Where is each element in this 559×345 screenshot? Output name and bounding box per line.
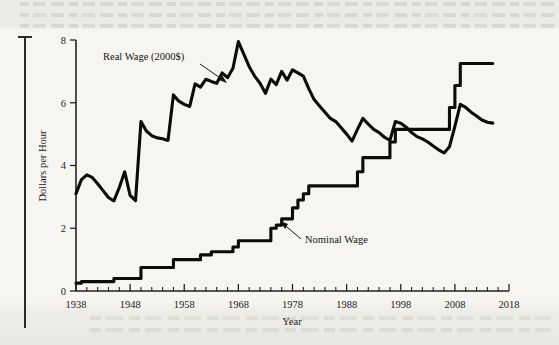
nominal-wage-annotation: Nominal Wage xyxy=(280,221,368,245)
x-tick-label: 1978 xyxy=(282,299,303,310)
real-wage-annotation: Real Wage (2000$) xyxy=(103,51,227,83)
series-group xyxy=(76,42,493,284)
y-tick-label: 6 xyxy=(61,98,66,109)
y-axis-title: Dollars per Hour xyxy=(37,130,48,202)
y-tick-label: 4 xyxy=(61,160,67,171)
x-tick-label: 1958 xyxy=(174,299,195,310)
minimum-wage-chart: 02468 Dollars per Hour 19381948195819681… xyxy=(0,0,559,345)
y-tick-group xyxy=(70,40,76,291)
y-axis: 02468 Dollars per Hour xyxy=(37,35,76,297)
x-tick-label: 1948 xyxy=(120,299,141,310)
x-tick-label: 1968 xyxy=(228,299,249,310)
chart-svg: 02468 Dollars per Hour 19381948195819681… xyxy=(0,0,559,345)
x-tick-label: 1938 xyxy=(66,299,87,310)
y-tick-label-group: 02468 xyxy=(61,35,67,297)
real-wage-line xyxy=(76,42,493,201)
y-tick-label: 8 xyxy=(61,35,66,46)
x-tick-label: 2018 xyxy=(499,299,520,310)
x-tick-label: 1988 xyxy=(336,299,357,310)
x-tick-label-group: 193819481958196819781988199820082018 xyxy=(66,299,520,310)
y-tick-label: 2 xyxy=(61,223,66,234)
y-tick-label: 0 xyxy=(61,286,66,297)
real-wage-label: Real Wage (2000$) xyxy=(103,51,185,63)
x-tick-label: 2008 xyxy=(444,299,465,310)
x-tick-label: 1998 xyxy=(390,299,411,310)
x-axis: 193819481958196819781988199820082018 Yea… xyxy=(66,284,520,327)
x-axis-title: Year xyxy=(282,316,302,327)
nominal-wage-label: Nominal Wage xyxy=(305,234,368,245)
